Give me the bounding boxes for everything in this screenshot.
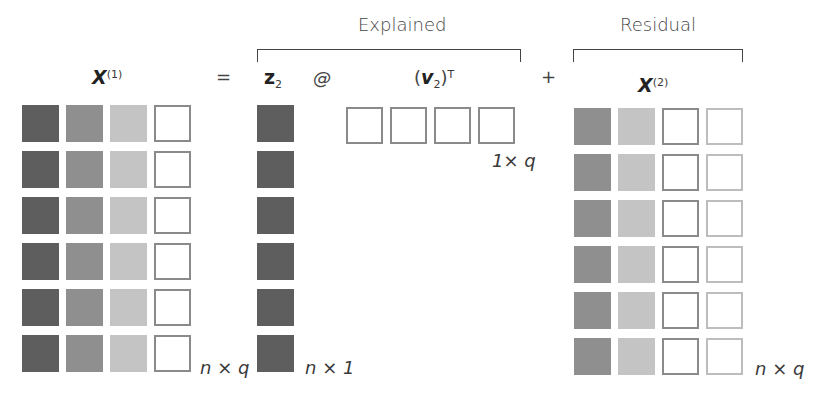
matrix-cell	[574, 108, 611, 145]
v2t-label: (v2)T	[414, 66, 454, 91]
matrix-cell	[154, 151, 191, 188]
matrix-cell	[257, 197, 294, 234]
matrix-cell	[110, 335, 147, 372]
matrix-cell	[706, 246, 743, 283]
matrix-cell	[574, 200, 611, 237]
matrix-cell	[154, 243, 191, 280]
matrix-cell	[618, 108, 655, 145]
matrix-cell	[257, 289, 294, 326]
matrix-cell	[478, 107, 515, 144]
matrix-cell	[574, 292, 611, 329]
matrix-cell	[110, 151, 147, 188]
matmul-operator: @	[313, 67, 331, 88]
matrix-cell	[110, 197, 147, 234]
matrix-cell	[22, 243, 59, 280]
matrix-cell	[22, 289, 59, 326]
dim-z2-label: n × 1	[305, 357, 354, 378]
matrix-cell	[662, 246, 699, 283]
matrix-cell	[662, 292, 699, 329]
matrix-cell	[110, 243, 147, 280]
matrix-cell	[574, 154, 611, 191]
matrix-cell	[706, 108, 743, 145]
matrix-cell	[706, 338, 743, 375]
matrix-cell	[662, 108, 699, 145]
matrix-cell	[706, 200, 743, 237]
matrix-cell	[110, 289, 147, 326]
matrix-cell	[257, 105, 294, 142]
explained-label: Explained	[358, 14, 446, 35]
explained-bracket	[257, 49, 521, 62]
matrix-cell	[154, 105, 191, 142]
matrix-cell	[618, 246, 655, 283]
matrix-cell	[22, 105, 59, 142]
matrix-cell	[154, 289, 191, 326]
residual-label: Residual	[620, 14, 696, 35]
matrix-cell	[22, 335, 59, 372]
matrix-cell	[154, 335, 191, 372]
matrix-cell	[574, 246, 611, 283]
matrix-cell	[22, 197, 59, 234]
dim-x2-label: n × q	[755, 358, 804, 379]
matrix-cell	[662, 200, 699, 237]
x1-label: X(1)	[92, 66, 122, 88]
matrix-cell	[618, 154, 655, 191]
x2-label: X(2)	[638, 74, 668, 96]
matrix-cell	[257, 335, 294, 372]
matrix-cell	[618, 292, 655, 329]
plus-sign: +	[541, 66, 556, 87]
residual-bracket	[573, 49, 743, 62]
matrix-cell	[390, 107, 427, 144]
matrix-cell	[706, 292, 743, 329]
matrix-cell	[66, 335, 103, 372]
matrix-cell	[66, 197, 103, 234]
matrix-cell	[662, 154, 699, 191]
matrix-cell	[66, 105, 103, 142]
matrix-cell	[618, 200, 655, 237]
matrix-cell	[706, 154, 743, 191]
matrix-cell	[434, 107, 471, 144]
dim-x1-label: n × q	[200, 357, 249, 378]
matrix-cell	[662, 338, 699, 375]
matrix-cell	[22, 151, 59, 188]
dim-v2t-label: 1× q	[492, 150, 536, 171]
matrix-cell	[66, 289, 103, 326]
matrix-cell	[110, 105, 147, 142]
matrix-cell	[257, 243, 294, 280]
matrix-cell	[346, 107, 383, 144]
matrix-cell	[574, 338, 611, 375]
equals-sign: =	[216, 66, 231, 87]
matrix-cell	[66, 243, 103, 280]
matrix-cell	[257, 151, 294, 188]
matrix-cell	[154, 197, 191, 234]
z2-label: z2	[264, 66, 282, 91]
matrix-cell	[618, 338, 655, 375]
matrix-cell	[66, 151, 103, 188]
